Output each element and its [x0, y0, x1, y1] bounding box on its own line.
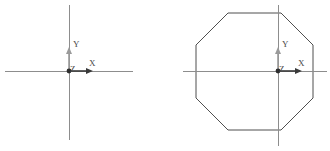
x-axis-arrowhead: [86, 68, 93, 74]
x-axis-arrowhead: [295, 68, 302, 74]
coordinate-axes-figure: X Y Z: [0, 0, 165, 151]
coordinate-triad: X Y Z: [275, 39, 305, 74]
octagon-figure: X Y Z: [165, 0, 330, 151]
z-axis-label: Z: [70, 64, 76, 74]
x-axis-label: X: [298, 58, 305, 68]
y-axis-arrowhead: [66, 47, 72, 54]
x-axis-label: X: [89, 58, 96, 68]
y-axis-label: Y: [282, 39, 289, 49]
z-axis-label: Z: [279, 64, 285, 74]
coordinate-triad: X Y Z: [66, 39, 96, 74]
diagram-canvas: X Y Z X Y Z: [0, 0, 330, 151]
y-axis-label: Y: [73, 39, 80, 49]
crosshair-group: [183, 5, 327, 146]
y-axis-arrowhead: [275, 47, 281, 54]
